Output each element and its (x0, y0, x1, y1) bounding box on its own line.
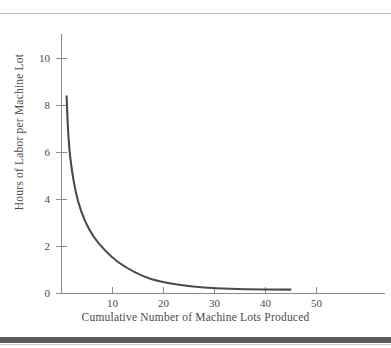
x-tick-label-30: 30 (198, 297, 231, 309)
bottom-divider-bar (0, 337, 391, 343)
x-tick-label-20: 20 (147, 297, 180, 309)
x-axis-title: Cumulative Number of Machine Lots Produc… (0, 311, 391, 323)
y-axis-title: Hours of Labor per Machine Lot (13, 27, 25, 237)
y-tick-label-2: 2 (18, 240, 50, 252)
learning-curve-line (67, 96, 291, 289)
y-tick-label-0: 0 (18, 287, 50, 299)
chart-plot-area (0, 14, 391, 334)
bottom-divider-thin-rule (0, 344, 391, 345)
chart-figure: 10 8 6 4 2 0 10 20 30 40 50 Hours of Lab… (0, 14, 391, 334)
x-tick-label-10: 10 (96, 297, 129, 309)
x-tick-label-40: 40 (249, 297, 282, 309)
x-tick-label-50: 50 (300, 297, 333, 309)
figure-page: 10 8 6 4 2 0 10 20 30 40 50 Hours of Lab… (0, 0, 391, 348)
